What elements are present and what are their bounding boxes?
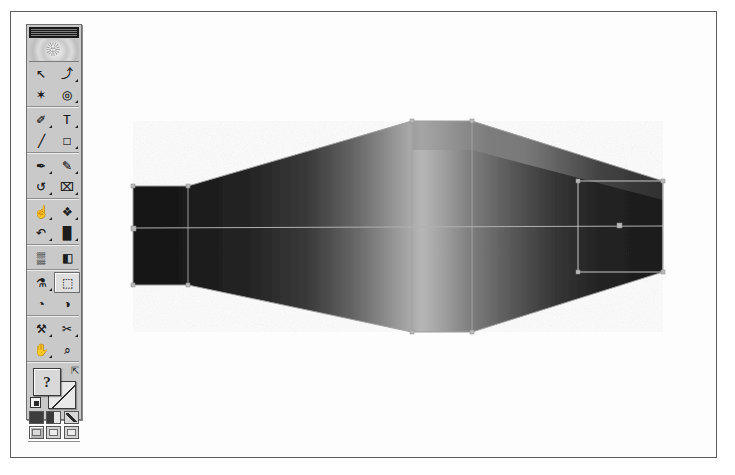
document-canvas[interactable] (11, 12, 716, 457)
lasso-tool[interactable]: ⤴ (54, 63, 80, 84)
anchor-point (661, 179, 665, 183)
crop-tool-glyph: ⌧ (60, 180, 74, 192)
tool-group[interactable]: ☝❖↶█ (28, 201, 80, 243)
anchor-point (576, 270, 580, 274)
tool-menu-triangle-icon[interactable] (75, 192, 78, 195)
tool-menu-triangle-icon[interactable] (75, 334, 78, 337)
tool-menu-triangle-icon[interactable] (75, 100, 78, 103)
anchor-point (186, 283, 190, 287)
smudge-tool-glyph: ☝ (34, 205, 49, 217)
color-swatches[interactable]: ? ⇱ (28, 365, 80, 409)
magic-wand-tool-glyph: ✶ (36, 88, 46, 100)
anchor-point (470, 119, 474, 123)
levels-tool-glyph: █ (63, 226, 72, 238)
default-colors-icon[interactable] (30, 397, 41, 408)
tool-group[interactable]: ⚒✂✋⌕ (28, 318, 80, 360)
full-screen-mode[interactable] (64, 426, 79, 439)
zoom-tool-glyph: ⌕ (64, 343, 71, 355)
rotate-tool-glyph: ↺ (36, 180, 46, 192)
rectangle-tool[interactable]: □ (54, 130, 80, 151)
pencil-tool[interactable]: ✎ (54, 155, 80, 176)
gradient-mesh-object[interactable] (11, 12, 716, 457)
wrench-tool[interactable]: ⚒ (28, 318, 54, 339)
tool-menu-triangle-icon[interactable] (75, 238, 78, 241)
shape-select-tool[interactable]: ⬚ (54, 272, 80, 293)
tool-menu-triangle-icon[interactable] (75, 146, 78, 149)
standard-screen-mode[interactable] (29, 426, 44, 439)
tool-group[interactable]: ↖⤴✶◎ (28, 63, 80, 105)
marquee-tool-glyph: ◎ (62, 88, 72, 100)
mask-mode-row[interactable] (28, 411, 80, 424)
swap-colors-icon[interactable]: ⇱ (71, 365, 79, 376)
dodge-burn-tool-glyph: ❖ (62, 205, 73, 217)
full-screen-menu-mode[interactable] (46, 426, 61, 439)
history-brush-tool[interactable]: ↶ (28, 222, 54, 243)
tool-menu-triangle-icon[interactable] (49, 192, 52, 195)
tool-menu-triangle-icon[interactable] (49, 334, 52, 337)
edit-mode[interactable] (64, 411, 79, 424)
tool-group[interactable]: ▒◧ (28, 247, 80, 268)
crop-tool[interactable]: ⌧ (54, 176, 80, 197)
tool-group[interactable]: ✒✎↺⌧ (28, 155, 80, 197)
hand-tool[interactable]: ✋ (28, 339, 54, 360)
paintbrush-tool[interactable]: ✒ (28, 155, 54, 176)
tool-list[interactable]: ↖⤴✶◎✐T╱□✒✎↺⌧☝❖↶█▒◧⚗⬚◔◑⚒✂✋⌕ (27, 63, 81, 360)
tool-menu-triangle-icon[interactable] (49, 217, 52, 220)
levels-tool[interactable]: █ (54, 222, 80, 243)
dodge-burn-tool[interactable]: ❖ (54, 201, 80, 222)
quick-mask-mode[interactable] (46, 411, 61, 424)
logo-sparkle-icon (46, 42, 60, 56)
blur-tool[interactable]: ◔ (28, 293, 54, 314)
move-tool[interactable]: ↖ (28, 63, 54, 84)
tool-menu-triangle-icon[interactable] (49, 355, 52, 358)
toolbox-title-bar[interactable] (29, 27, 79, 38)
gradient-tool[interactable]: ◧ (54, 247, 80, 268)
anchor-point (186, 184, 190, 188)
eyedropper-tool[interactable]: ⚗ (28, 272, 54, 293)
sharpen-tool[interactable]: ◑ (54, 293, 80, 314)
paintbrush-tool-glyph: ✒ (36, 159, 46, 171)
pencil-tool-glyph: ✎ (62, 159, 72, 171)
title-bar-stripes (31, 29, 77, 36)
pen-tool-glyph: ✐ (36, 113, 46, 125)
hand-tool-glyph: ✋ (34, 343, 49, 355)
smudge-tool[interactable]: ☝ (28, 201, 54, 222)
pen-tool[interactable]: ✐ (28, 109, 54, 130)
type-tool[interactable]: T (54, 109, 80, 130)
type-tool-glyph: T (63, 113, 70, 125)
pattern-tool[interactable]: ▒ (28, 247, 54, 268)
application-screenshot: ↖⤴✶◎✐T╱□✒✎↺⌧☝❖↶█▒◧⚗⬚◔◑⚒✂✋⌕ ? ⇱ (0, 0, 735, 475)
gradient-tool-glyph: ◧ (62, 251, 73, 263)
tool-menu-triangle-icon[interactable] (75, 125, 78, 128)
toolbox-divider (27, 315, 79, 317)
tool-menu-triangle-icon[interactable] (49, 171, 52, 174)
anchor-point (131, 184, 135, 188)
zoom-tool[interactable]: ⌕ (54, 339, 80, 360)
eyedropper-tool-glyph: ⚗ (36, 276, 47, 288)
tool-menu-triangle-icon[interactable] (49, 125, 52, 128)
anchor-point (617, 223, 622, 228)
foreground-color-swatch[interactable]: ? (33, 368, 61, 396)
marquee-tool[interactable]: ◎ (54, 84, 80, 105)
tool-group[interactable]: ✐T╱□ (28, 109, 80, 151)
history-brush-tool-glyph: ↶ (36, 226, 46, 238)
tool-menu-triangle-icon[interactable] (49, 238, 52, 241)
tool-menu-triangle-icon[interactable] (49, 288, 52, 291)
scissors-tool[interactable]: ✂ (54, 318, 80, 339)
blur-tool-glyph: ◔ (37, 297, 44, 309)
toolbox-palette[interactable]: ↖⤴✶◎✐T╱□✒✎↺⌧☝❖↶█▒◧⚗⬚◔◑⚒✂✋⌕ ? ⇱ (26, 24, 82, 420)
toolbox-divider (27, 198, 79, 200)
tool-menu-triangle-icon[interactable] (75, 171, 78, 174)
standard-mode[interactable] (29, 411, 44, 424)
line-tool[interactable]: ╱ (28, 130, 54, 151)
tool-group[interactable]: ⚗⬚◔◑ (28, 272, 80, 314)
anchor-point (410, 119, 414, 123)
anchor-point (410, 330, 414, 334)
screen-mode-row[interactable] (28, 426, 80, 439)
magic-wand-tool[interactable]: ✶ (28, 84, 54, 105)
pattern-tool-glyph: ▒ (37, 251, 46, 263)
tool-menu-triangle-icon[interactable] (75, 217, 78, 220)
lasso-tool-glyph: ⤴ (61, 67, 73, 79)
tool-menu-triangle-icon[interactable] (75, 79, 78, 82)
rotate-tool[interactable]: ↺ (28, 176, 54, 197)
